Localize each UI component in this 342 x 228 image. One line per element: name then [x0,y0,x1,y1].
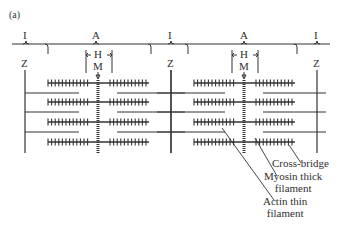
a-band-edge-tick [148,44,151,54]
h-zone-label-left: H [94,49,102,60]
actin-label-line1: Actin thin [263,195,307,207]
cross-bridge-label: Cross-bridge [272,157,329,169]
cross-bridge-text: Cross-bridge [272,157,329,169]
z-label-left: Z [21,58,28,69]
panel-label: (a) [9,9,20,20]
band-label-a-left: A [92,30,100,41]
myosin-thick-filament-label: Myosin thick filament [264,170,322,194]
band-label-i-middle: I [168,30,172,41]
z-label-middle: Z [167,58,174,69]
myosin-label-line2: filament [264,182,322,194]
a-band-edge-tick [45,44,48,54]
sarcomere-diagram: (a) I A I A I Z Z Z H M H M Cross-bridge… [0,0,342,228]
band-label-a-right: A [240,30,248,41]
band-label-i-left: I [23,30,27,41]
a-band-edge-tick [185,44,188,54]
m-line-label-right: M [239,61,249,72]
band-label-i-right: I [314,30,318,41]
z-label-right: Z [313,58,320,69]
actin-label-line2: filament [263,207,307,219]
h-zone-label-right: H [240,49,248,60]
m-line-label-left: M [93,61,103,72]
actin-thin-filament-label: Actin thin filament [263,195,307,219]
myosin-label-line1: Myosin thick [264,170,322,182]
a-band-edge-tick [294,44,297,54]
